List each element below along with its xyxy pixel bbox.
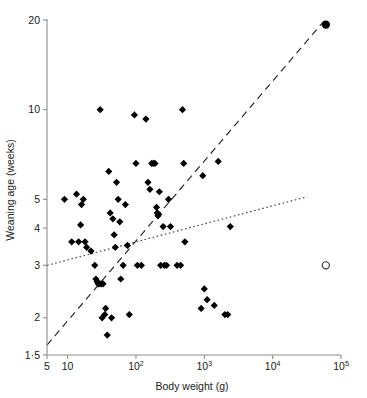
y-tick-label-5: 2 — [34, 311, 40, 323]
y-axis-title: Weaning age (weeks) — [4, 139, 16, 240]
data-point-diamond — [126, 311, 133, 318]
data-point-diamond — [77, 221, 84, 228]
data-point-diamond — [215, 158, 222, 165]
data-point-diamond — [144, 179, 151, 186]
data-point-diamond — [156, 188, 163, 195]
data-point-diamond — [204, 296, 211, 303]
data-point-diamond — [91, 262, 98, 269]
y-axis-ticks: 201054321·5 — [25, 14, 47, 361]
data-point-diamond — [201, 285, 208, 292]
data-point-diamond — [142, 115, 149, 122]
y-tick-label-2: 5 — [34, 193, 40, 205]
data-point-diamond — [111, 231, 118, 238]
data-point-diamond — [113, 179, 120, 186]
x-tick-label-2: 102 — [128, 360, 144, 372]
data-point-diamond — [124, 242, 131, 249]
y-tick-label-1: 10 — [28, 103, 40, 115]
data-point-diamond — [105, 168, 112, 175]
data-point-diamond — [75, 238, 82, 245]
data-point-diamond — [61, 196, 68, 203]
data-point-diamond — [153, 204, 160, 211]
x-axis-title: Body weight (g) — [156, 380, 229, 392]
data-point-diamond — [131, 111, 138, 118]
x-axis-ticks: 510102103104105 — [44, 355, 349, 372]
x-tick-label-0: 5 — [44, 360, 50, 372]
data-point-diamond — [102, 305, 109, 312]
data-point-diamond — [211, 302, 218, 309]
data-point-diamond — [117, 275, 124, 282]
data-point-diamond — [138, 262, 145, 269]
data-point-diamond — [108, 314, 115, 321]
y-tick-label-6: 1·5 — [25, 349, 40, 361]
data-point-diamond — [180, 160, 187, 167]
data-point-diamond — [81, 238, 88, 245]
dashed-regression — [47, 21, 324, 345]
y-tick-label-3: 4 — [34, 222, 40, 234]
data-point-diamond — [122, 201, 129, 208]
x-tick-label-1: 10 — [62, 360, 74, 372]
x-tick-label-5: 105 — [333, 360, 349, 372]
data-point-diamond — [167, 223, 174, 230]
data-point-diamond — [199, 172, 206, 179]
data-point-filled-circle — [322, 20, 330, 28]
data-point-diamond — [160, 223, 167, 230]
data-markers-group — [61, 20, 330, 338]
x-tick-label-4: 104 — [265, 360, 281, 372]
data-point-diamond — [68, 238, 75, 245]
data-point-diamond — [227, 223, 234, 230]
data-point-diamond — [73, 191, 80, 198]
dotted-regression — [47, 197, 307, 266]
y-tick-label-4: 3 — [34, 259, 40, 271]
data-point-diamond — [115, 196, 122, 203]
data-point-diamond — [104, 331, 111, 338]
scatter-plot-figure: 201054321·5 510102103104105 Body weight … — [0, 0, 367, 398]
data-point-diamond — [116, 218, 123, 225]
chart-canvas: 201054321·5 510102103104105 Body weight … — [0, 0, 367, 398]
data-point-diamond — [165, 196, 172, 203]
axes-group: 201054321·5 510102103104105 — [25, 14, 349, 372]
fit-lines-group — [47, 21, 324, 345]
data-point-diamond — [181, 238, 188, 245]
data-point-diamond — [146, 186, 153, 193]
y-tick-label-0: 20 — [28, 14, 40, 26]
data-point-diamond — [179, 106, 186, 113]
x-tick-label-3: 103 — [196, 360, 212, 372]
data-point-diamond — [97, 106, 104, 113]
data-point-diamond — [198, 305, 205, 312]
data-point-diamond — [120, 262, 127, 269]
data-point-diamond — [132, 160, 139, 167]
data-point-open-circle — [322, 262, 329, 269]
data-point-diamond — [112, 244, 119, 251]
